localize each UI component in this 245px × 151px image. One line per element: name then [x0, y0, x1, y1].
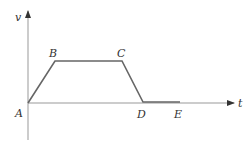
t-axis-label: t	[238, 97, 243, 110]
point-label-e: E	[173, 108, 182, 121]
velocity-curve	[28, 61, 180, 103]
velocity-time-diagram: v t A B C D E	[0, 0, 245, 151]
point-label-c: C	[117, 47, 126, 60]
v-axis-label: v	[15, 11, 22, 24]
point-label-b: B	[48, 47, 57, 60]
point-label-d: D	[136, 108, 146, 121]
point-label-a: A	[14, 107, 23, 120]
